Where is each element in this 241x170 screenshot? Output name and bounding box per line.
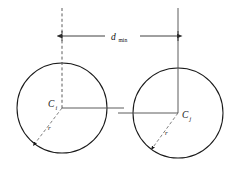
radius-label-left: r — [48, 124, 51, 132]
center-label-left-subscript: i — [56, 104, 58, 111]
center-label-left: C — [48, 99, 55, 109]
radius-label-right: r — [165, 129, 168, 137]
geometry-diagram-svg: d min r r C i C j — [0, 0, 241, 170]
distance-label-subscript: min — [119, 37, 128, 43]
distance-label: d — [111, 32, 116, 42]
center-label-right-subscript: j — [189, 115, 192, 122]
center-label-right: C — [182, 110, 189, 120]
geometry-diagram-container: d min r r C i C j — [0, 0, 241, 170]
